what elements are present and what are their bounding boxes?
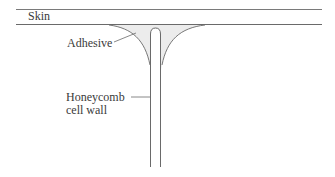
cell-wall-label-line2: cell wall xyxy=(66,104,107,117)
skin-label: Skin xyxy=(28,10,50,23)
adhesive-label: Adhesive xyxy=(67,37,112,50)
honeycomb-bond-diagram xyxy=(0,0,335,177)
cell-wall xyxy=(151,28,161,167)
adhesive-leader xyxy=(114,33,136,42)
